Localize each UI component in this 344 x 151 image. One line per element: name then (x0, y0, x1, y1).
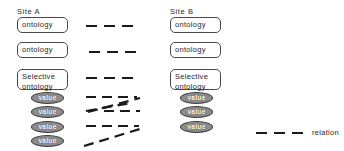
legend-dashed-line-icon (256, 130, 308, 136)
site-a-value-node-3[interactable]: value (31, 121, 64, 133)
site-a-title: Site A (17, 7, 40, 16)
site-a-ontology-box-1[interactable]: ontology (17, 17, 68, 33)
site-a-selective-ontology-box[interactable]: Selective ontology (17, 69, 68, 90)
diagram-canvas: Site A ontology ontology Selective ontol… (0, 0, 344, 151)
legend: relation (256, 128, 339, 137)
site-b-title: Site B (170, 7, 194, 16)
connector-value-relation-3 (86, 103, 131, 111)
site-b-value-node-1[interactable]: value (180, 92, 213, 104)
connector-value-relation-6 (84, 129, 140, 146)
site-b-value-node-2[interactable]: value (180, 106, 213, 118)
site-b-ontology-box-1[interactable]: ontology (170, 17, 221, 33)
legend-label: relation (312, 128, 339, 137)
site-b-ontology-box-2[interactable]: ontology (170, 42, 221, 58)
site-b-value-node-3[interactable]: value (180, 121, 213, 133)
site-a-ontology-box-2[interactable]: ontology (17, 42, 68, 58)
site-b-selective-ontology-box[interactable]: Selective ontology (170, 69, 221, 90)
site-a-value-node-1[interactable]: value (31, 92, 64, 104)
site-a-value-node-4[interactable]: value (31, 135, 64, 147)
site-a-value-node-2[interactable]: value (31, 106, 64, 118)
